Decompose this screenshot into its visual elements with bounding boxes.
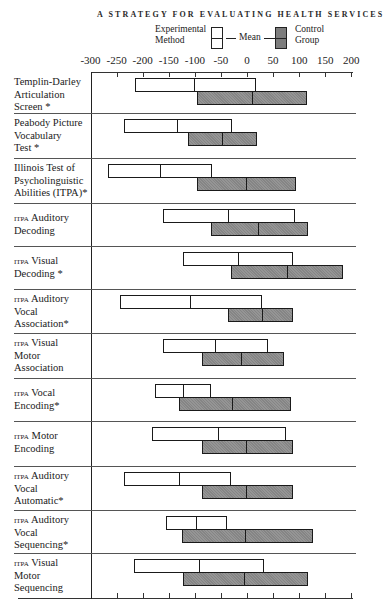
row-label-line: itpa Visual [14, 255, 90, 268]
row-label: Illinois Test ofPsycholinguisticAbilitie… [14, 162, 90, 200]
mean-marker [215, 340, 216, 352]
mean-marker [262, 309, 263, 321]
control-bar [183, 572, 308, 586]
legend-mean-label: Mean [239, 32, 261, 43]
legend-experimental-line1: Experimental [155, 24, 206, 35]
mean-marker [218, 428, 219, 440]
control-bar [182, 529, 313, 543]
row-label-line: Illinois Test of [14, 162, 90, 175]
itpa-abbrev: itpa [14, 255, 29, 266]
legend-control-label: Control Group [295, 24, 324, 46]
row-label-line: itpa Auditory [14, 470, 90, 483]
itpa-abbrev: itpa [14, 337, 29, 348]
row-separator [14, 553, 356, 554]
experimental-bar [108, 164, 212, 178]
control-bar [211, 222, 308, 236]
experimental-bar [135, 78, 256, 92]
mean-marker [258, 223, 259, 235]
row-label-line: Motor [14, 350, 90, 363]
mean-marker [245, 530, 246, 542]
control-bar [202, 485, 293, 499]
row-label-line: Sequencing [14, 582, 90, 595]
mean-marker [246, 486, 247, 498]
legend-control-line2: Group [295, 35, 324, 46]
mean-marker [252, 92, 253, 104]
mean-marker [232, 398, 233, 410]
experimental-bar [183, 252, 293, 266]
mean-marker [160, 165, 161, 177]
row-label: itpa AuditoryDecoding [14, 212, 90, 237]
row-label-line: itpa Vocal [14, 387, 90, 400]
itpa-abbrev: itpa [14, 293, 29, 304]
experimental-bar [120, 295, 262, 309]
x-tick-label: -300 [80, 54, 100, 66]
mean-marker [238, 253, 239, 265]
mean-marker [177, 120, 178, 132]
x-axis-top [91, 72, 353, 73]
experimental-bar [152, 427, 286, 441]
row-separator [14, 421, 356, 422]
row-label-line: Articulation [14, 89, 90, 102]
experimental-bar [124, 472, 231, 486]
row-separator [14, 378, 356, 379]
row-label-line: Vocal [14, 483, 90, 496]
row-label: itpa MotorEncoding [14, 430, 90, 455]
row-label-line: Abilities (ITPA)* [14, 187, 90, 200]
experimental-bar [124, 119, 232, 133]
row-label-line: Vocal [14, 527, 90, 540]
legend-mean-line-left [226, 38, 236, 39]
row-label-line: Motor [14, 570, 90, 583]
control-bar [228, 308, 293, 322]
page-header: A STRATEGY FOR EVALUATING HEALTH SERVICE… [97, 10, 384, 19]
control-bar [188, 132, 257, 146]
row-label-line: Templin-Darley [14, 76, 90, 89]
row-label: itpa VocalEncoding* [14, 387, 90, 412]
row-label-line: Screen * [14, 101, 90, 114]
mean-marker [179, 473, 180, 485]
mean-marker [196, 517, 197, 529]
mean-marker [183, 385, 184, 397]
itpa-abbrev: itpa [14, 514, 29, 525]
mean-marker [190, 296, 191, 308]
row-label-line: itpa Auditory [14, 212, 90, 225]
legend-experimental-swatch [211, 27, 223, 49]
row-label-line: Encoding [14, 443, 90, 456]
row-separator [14, 333, 356, 334]
row-label-line: Association [14, 362, 90, 375]
row-separator [14, 158, 356, 159]
control-bar [197, 91, 307, 105]
itpa-abbrev: itpa [14, 470, 29, 481]
row-separator [14, 510, 356, 511]
row-label-line: Test * [14, 142, 90, 155]
y-axis-divider [91, 72, 92, 599]
x-tick-label: 150 [317, 54, 334, 66]
control-bar [202, 440, 293, 454]
row-label-line: itpa Motor [14, 430, 90, 443]
x-tick-label: -200 [133, 54, 153, 66]
mean-marker [244, 573, 245, 585]
experimental-bar [155, 384, 211, 398]
row-label-line: itpa Visual [14, 557, 90, 570]
control-bar [197, 177, 296, 191]
itpa-abbrev: itpa [14, 387, 29, 398]
row-separator [14, 113, 356, 114]
row-label-line: Encoding* [14, 400, 90, 413]
mean-marker [194, 79, 195, 91]
row-separator [14, 203, 356, 204]
mean-marker [222, 133, 223, 145]
itpa-abbrev: itpa [14, 430, 29, 441]
row-label-line: itpa Auditory [14, 293, 90, 306]
row-label-line: itpa Visual [14, 337, 90, 350]
row-label: itpa VisualMotorSequencing [14, 557, 90, 595]
mean-marker [228, 210, 229, 222]
itpa-abbrev: itpa [14, 212, 29, 223]
x-tick-label: -100 [185, 54, 205, 66]
legend-experimental-label: Experimental Method [155, 24, 206, 46]
mean-marker [246, 441, 247, 453]
x-tick-label: -50 [214, 54, 229, 66]
control-bar [202, 352, 284, 366]
row-label-line: Decoding [14, 225, 90, 238]
legend-mean-line-right [264, 38, 275, 39]
row-label: itpa VisualMotorAssociation [14, 337, 90, 375]
row-label-line: Vocabulary [14, 130, 90, 143]
